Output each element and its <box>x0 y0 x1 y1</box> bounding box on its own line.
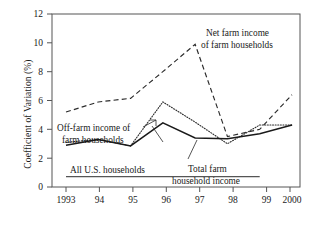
annotation-off-farm-leader-2 <box>152 126 163 142</box>
y-tick-4: 4 <box>38 125 43 135</box>
x-tick-1993: 1993 <box>57 195 76 205</box>
chart-canvas: 0 2 4 6 8 10 12 1993 94 95 96 97 98 99 <box>0 0 323 227</box>
x-tick-97: 97 <box>195 195 205 205</box>
chart-figure: Coefficient of Variation (%) 0 2 4 6 8 1… <box>0 0 323 227</box>
x-tick-98: 98 <box>228 195 238 205</box>
annotation-net-farm-line1: Net farm income <box>206 28 269 38</box>
y-axis-ticks <box>47 14 52 187</box>
annotation-all-us-line1: All U.S. households <box>70 165 145 175</box>
y-tick-8: 8 <box>38 67 43 77</box>
y-tick-12: 12 <box>34 9 44 19</box>
y-tick-6: 6 <box>38 96 43 106</box>
y-tick-2: 2 <box>38 154 43 164</box>
annotation-total-farm-household-income: Total farm household income <box>172 140 240 186</box>
annotation-off-farm-line2: farm households <box>62 135 124 145</box>
x-tick-2000: 2000 <box>283 195 302 205</box>
annotation-total-farm-line2: household income <box>172 176 240 186</box>
x-tick-95: 95 <box>128 195 138 205</box>
annotation-net-farm-line2: of farm households <box>201 40 273 50</box>
y-tick-0: 0 <box>38 182 43 192</box>
x-tick-96: 96 <box>162 195 172 205</box>
x-axis-tick-labels: 1993 94 95 96 97 98 99 2000 <box>57 195 302 205</box>
y-tick-10: 10 <box>34 38 44 48</box>
annotation-off-farm-income: Off-farm income of farm households <box>57 120 163 145</box>
y-axis-label: Coefficient of Variation (%) <box>23 34 33 194</box>
x-tick-99: 99 <box>262 195 272 205</box>
annotation-total-farm-line1: Total farm <box>188 164 228 174</box>
annotation-all-us-households: All U.S. households <box>70 165 145 175</box>
x-tick-94: 94 <box>95 195 105 205</box>
annotation-net-farm-income: Net farm income of farm households <box>201 28 273 50</box>
y-axis-tick-labels: 0 2 4 6 8 10 12 <box>34 9 44 192</box>
x-axis-ticks <box>66 187 290 192</box>
annotation-total-farm-leader <box>188 140 197 159</box>
annotation-off-farm-line1: Off-farm income of <box>57 123 131 133</box>
